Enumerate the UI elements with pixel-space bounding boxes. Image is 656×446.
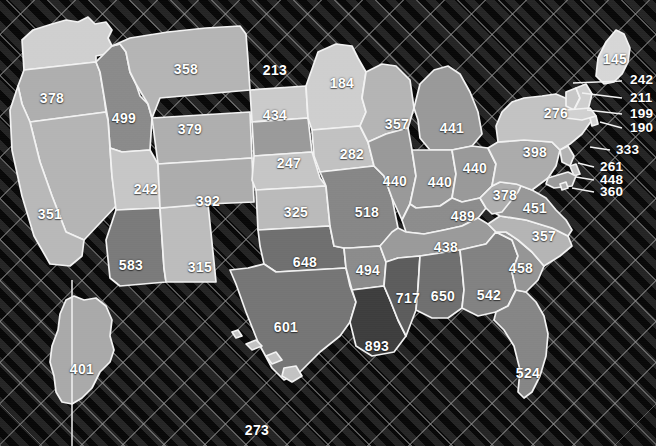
- callout-label-ri: 190: [630, 121, 653, 135]
- state-dc[interactable]: [560, 182, 568, 190]
- callout-label-dc: 360: [600, 185, 623, 199]
- value-label-or: 378: [40, 91, 64, 105]
- value-label-id: 499: [112, 111, 136, 125]
- value-label-ne: 247: [277, 156, 301, 170]
- value-label-ar: 494: [356, 263, 380, 277]
- state-wy[interactable]: [152, 112, 252, 164]
- value-label-co: 392: [196, 194, 220, 208]
- value-label-wv: 378: [493, 188, 517, 202]
- value-label-ak: 401: [70, 362, 94, 376]
- value-label-il: 440: [383, 174, 407, 188]
- state-nj[interactable]: [560, 146, 574, 166]
- value-label-wi: 357: [385, 117, 409, 131]
- state-mi[interactable]: [414, 66, 482, 150]
- value-label-sc: 458: [509, 261, 533, 275]
- callout-label-vt: 242: [630, 73, 653, 87]
- value-label-al: 650: [431, 289, 455, 303]
- leader-line-nj: [590, 147, 610, 150]
- value-label-ms: 717: [396, 291, 420, 305]
- value-label-mi: 441: [440, 121, 464, 135]
- value-label-ga: 542: [477, 288, 501, 302]
- value-label-nd: 213: [263, 63, 287, 77]
- callout-label-nh: 211: [630, 91, 653, 105]
- map-figure: 3784993583793512425833153922134342473256…: [0, 0, 656, 446]
- value-label-la: 893: [365, 339, 389, 353]
- value-label-az: 583: [119, 258, 143, 272]
- state-sd[interactable]: [252, 118, 312, 156]
- value-label-va: 451: [523, 201, 547, 215]
- value-label-ok: 648: [293, 255, 317, 269]
- value-label-fl: 524: [516, 366, 540, 380]
- us-states-svg: [0, 0, 656, 446]
- value-label-ia: 282: [340, 147, 364, 161]
- value-label-mo: 518: [355, 205, 379, 219]
- value-label-ut: 242: [134, 182, 158, 196]
- value-label-tx: 601: [274, 320, 298, 334]
- value-label-wy: 379: [178, 122, 202, 136]
- value-label-sd: 434: [263, 108, 287, 122]
- value-label-hi: 273: [245, 423, 269, 437]
- leader-line-md: [576, 177, 594, 180]
- value-label-pa: 398: [523, 145, 547, 159]
- leader-line-vt: [573, 81, 622, 83]
- value-label-mt: 358: [174, 62, 198, 76]
- state-ut[interactable]: [110, 148, 160, 210]
- value-label-oh: 440: [463, 161, 487, 175]
- us-map-container: [0, 0, 656, 446]
- callout-label-ma: 199: [630, 107, 653, 121]
- value-label-tn: 438: [434, 240, 458, 254]
- value-label-nm: 315: [188, 260, 212, 274]
- value-label-ny: 276: [544, 106, 568, 120]
- value-label-in: 440: [428, 175, 452, 189]
- state-al[interactable]: [416, 250, 464, 318]
- callout-label-nj: 333: [616, 143, 639, 157]
- value-label-ks: 325: [284, 205, 308, 219]
- leader-line-ri: [600, 122, 622, 128]
- value-label-me: 145: [603, 52, 627, 66]
- value-label-nv: 351: [38, 207, 62, 221]
- value-label-nc: 357: [532, 229, 556, 243]
- state-ak[interactable]: [50, 296, 114, 404]
- leader-line-dc: [572, 188, 594, 192]
- value-label-mn: 184: [330, 76, 354, 90]
- state-az[interactable]: [106, 208, 166, 286]
- value-label-ky: 489: [451, 209, 475, 223]
- leader-line-de: [578, 163, 594, 167]
- state-ri[interactable]: [590, 116, 598, 126]
